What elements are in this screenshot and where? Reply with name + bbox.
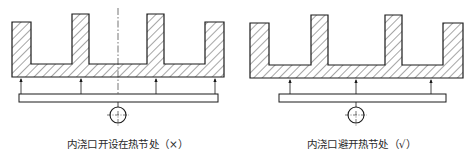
runner-bar xyxy=(19,94,218,102)
ingate-arrow-icon xyxy=(213,78,216,82)
ingate-arrow-icon xyxy=(154,78,157,82)
runner-bar xyxy=(279,94,446,102)
casting-gating-drawing xyxy=(0,0,475,157)
ingate-arrow-icon xyxy=(288,79,291,83)
caption-right-gate-avoids-hot-spot: 内浇口避开热节处（√） xyxy=(307,136,416,151)
caption-left-gate-at-hot-spot: 内浇口开设在热节处（×） xyxy=(67,136,188,151)
ingate-arrow-icon xyxy=(79,78,82,82)
ingate-arrow-icon xyxy=(19,78,22,82)
casting-section-hatched xyxy=(250,15,463,78)
right-diagram-correct xyxy=(250,15,463,126)
ingate-arrow-icon xyxy=(429,79,432,83)
gating-design-comparison-figure: 内浇口开设在热节处（×） 内浇口避开热节处（√） xyxy=(0,0,475,157)
left-diagram-incorrect xyxy=(12,8,224,126)
ingate-arrow-icon xyxy=(354,79,357,83)
